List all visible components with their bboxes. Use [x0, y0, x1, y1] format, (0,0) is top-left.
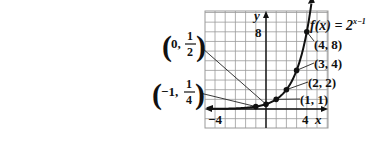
- svg-text:): ): [195, 77, 205, 111]
- exponential-graph: y 8 −4 4 x f(x) = 2x−1 (4, 8) (3, 4) (2,…: [0, 0, 384, 141]
- point-label-4-8: (4, 8): [314, 37, 342, 52]
- x-axis-label: x: [314, 112, 322, 127]
- point-label-neg1-quarter: ( −1, 1 4 ): [152, 77, 205, 111]
- svg-text:): ): [196, 29, 206, 63]
- function-label-prefix: f(x) = 2: [310, 18, 353, 34]
- data-point: [284, 87, 290, 93]
- svg-text:0,: 0,: [171, 36, 181, 51]
- svg-text:1: 1: [187, 29, 193, 43]
- data-point: [273, 97, 279, 103]
- point-label-2-2: (2, 2): [308, 75, 336, 90]
- svg-text:1: 1: [186, 77, 192, 91]
- point-label-1-1: (1, 1): [300, 92, 328, 107]
- data-point: [253, 104, 259, 110]
- svg-text:−1,: −1,: [161, 84, 178, 99]
- function-label-exponent: x−1: [352, 17, 366, 26]
- function-label: f(x) = 2x−1: [310, 17, 366, 34]
- y-tick-8: 8: [255, 25, 262, 40]
- curve: [206, 0, 315, 110]
- data-point: [294, 68, 300, 74]
- data-point: [304, 29, 310, 35]
- data-point: [263, 101, 269, 107]
- y-axis-label: y: [252, 8, 260, 23]
- x-tick-neg4: −4: [208, 112, 222, 127]
- point-label-0-half: ( 0, 1 2 ): [162, 29, 206, 63]
- x-tick-4: 4: [302, 112, 309, 127]
- point-label-3-4: (3, 4): [314, 56, 342, 71]
- svg-text:2: 2: [187, 45, 193, 59]
- svg-text:4: 4: [186, 93, 192, 107]
